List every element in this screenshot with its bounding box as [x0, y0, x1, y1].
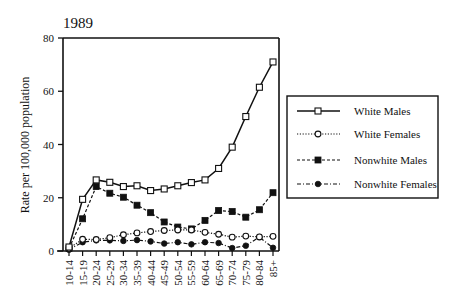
open-square-marker: [175, 183, 181, 189]
filled-square-marker: [134, 202, 140, 208]
x-tick-label: 25-29: [104, 260, 116, 286]
open-square-marker: [243, 114, 249, 120]
y-axis-label: Rate per 100,000 population: [18, 77, 32, 214]
x-tick-label: 60-64: [199, 260, 211, 286]
open-square-marker: [148, 188, 154, 194]
filled-square-marker: [243, 214, 249, 220]
chart-title: 1989: [63, 15, 93, 31]
x-tick-label: 35-39: [131, 260, 143, 286]
open-square-marker: [161, 186, 167, 192]
x-tick-label: 65-69: [213, 260, 225, 286]
filled-circle-marker: [148, 239, 154, 245]
filled-square-marker: [161, 219, 167, 225]
open-square-marker: [134, 183, 140, 189]
filled-square-marker: [80, 216, 86, 222]
open-circle-marker: [257, 234, 263, 240]
x-tick-label: 30-34: [117, 260, 129, 286]
open-square-marker: [216, 165, 222, 171]
x-tick-label: 15-19: [77, 260, 89, 286]
open-circle-marker: [148, 229, 154, 235]
y-tick-label: 20: [43, 192, 55, 204]
open-square-marker: [315, 108, 321, 114]
open-circle-marker: [202, 229, 208, 235]
y-tick-label: 80: [43, 32, 55, 44]
x-axis-ticks: 10-1415-1920-2425-2930-3435-3940-4445-49…: [63, 251, 279, 286]
filled-square-marker: [315, 157, 321, 163]
filled-circle-marker: [121, 238, 127, 244]
open-square-marker: [188, 180, 194, 186]
open-circle-marker: [315, 131, 321, 137]
x-tick-label: 40-44: [145, 260, 157, 286]
x-tick-label: 10-14: [63, 260, 75, 286]
filled-circle-marker: [202, 239, 208, 245]
open-circle-marker: [229, 234, 235, 240]
open-circle-marker: [80, 236, 86, 242]
x-tick-label: 80-84: [253, 260, 265, 286]
open-square-marker: [270, 59, 276, 65]
x-tick-label: 45-49: [158, 260, 170, 286]
series-white-males: [66, 59, 276, 250]
open-square-marker: [107, 179, 113, 185]
open-circle-marker: [161, 228, 167, 234]
filled-square-marker: [270, 190, 276, 196]
open-circle-marker: [93, 237, 99, 243]
open-square-marker: [256, 84, 262, 90]
series-layer: [66, 59, 276, 253]
filled-circle-marker: [216, 240, 222, 246]
filled-circle-marker: [229, 245, 235, 251]
x-tick-label: 50-54: [172, 260, 184, 286]
open-circle-marker: [189, 227, 195, 233]
open-square-marker: [202, 177, 208, 183]
series-line: [69, 62, 273, 247]
open-circle-marker: [243, 233, 249, 239]
filled-square-marker: [148, 210, 154, 216]
y-tick-label: 60: [43, 85, 55, 97]
x-tick-label: 75-79: [240, 260, 252, 286]
open-square-marker: [93, 177, 99, 183]
x-tick-label: 20-24: [90, 260, 102, 286]
open-circle-marker: [134, 230, 140, 236]
filled-square-marker: [229, 209, 235, 215]
y-axis-ticks: 020406080: [43, 32, 63, 257]
filled-square-marker: [120, 194, 126, 200]
x-tick-label: 70-74: [226, 260, 238, 286]
filled-square-marker: [216, 208, 222, 214]
filled-circle-marker: [243, 243, 249, 249]
legend-label: Nonwhite Females: [354, 178, 437, 190]
open-square-marker: [120, 184, 126, 190]
open-circle-marker: [175, 227, 181, 233]
filled-square-marker: [256, 207, 262, 213]
open-circle-marker: [107, 235, 113, 241]
filled-circle-marker: [189, 242, 195, 248]
open-square-marker: [80, 196, 86, 202]
filled-circle-marker: [315, 181, 321, 187]
legend: White MalesWhite FemalesNonwhite MalesNo…: [287, 96, 438, 198]
legend-label: Nonwhite Males: [354, 154, 427, 166]
open-circle-marker: [121, 232, 127, 238]
y-tick-label: 40: [43, 139, 55, 151]
y-tick-label: 0: [49, 245, 55, 257]
filled-square-marker: [93, 184, 99, 190]
open-circle-marker: [216, 231, 222, 237]
open-square-marker: [229, 144, 235, 150]
filled-square-marker: [107, 190, 113, 196]
chart-canvas: 1989 Rate per 100,000 population 0204060…: [0, 0, 460, 301]
filled-circle-marker: [161, 241, 167, 247]
open-circle-marker: [270, 233, 276, 239]
filled-square-marker: [202, 217, 208, 223]
filled-circle-marker: [175, 239, 181, 245]
open-square-marker: [66, 244, 72, 250]
filled-circle-marker: [134, 237, 140, 243]
x-tick-label: 85+: [267, 260, 279, 277]
legend-label: White Females: [354, 128, 420, 140]
legend-label: White Males: [354, 105, 411, 117]
filled-circle-marker: [270, 245, 276, 251]
x-tick-label: 55-59: [185, 260, 197, 286]
